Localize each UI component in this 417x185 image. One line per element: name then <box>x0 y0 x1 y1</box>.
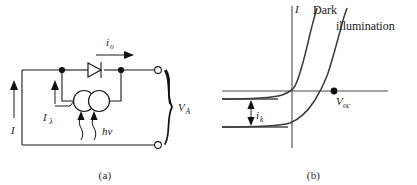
panel-a-circuit: I I λ i o hν <box>0 0 210 185</box>
photon-arrows <box>77 111 97 140</box>
label-ik-sub: k <box>260 115 264 124</box>
wire-node-to-source-right <box>110 70 121 101</box>
caption-a: (a) <box>0 169 210 181</box>
photon-arrowhead-left <box>77 111 84 120</box>
diode-symbol <box>88 62 101 78</box>
current-arrow-io <box>96 51 134 59</box>
ik-arrow-head-down <box>247 117 254 126</box>
current-arrow-I <box>10 80 18 118</box>
label-hv: hν <box>102 125 113 137</box>
wire-photocurrent-stub <box>55 101 74 106</box>
label-VA-sub: A <box>185 107 191 116</box>
iv-plot-svg: V oc i k I Dark illumination <box>210 0 417 160</box>
caption-b: (b) <box>210 169 417 181</box>
junction-node-left <box>59 67 65 73</box>
label-Ilambda: I <box>42 111 48 123</box>
wire-node-to-source-left <box>62 70 74 101</box>
label-dark: Dark <box>313 3 337 17</box>
junction-node-right <box>118 67 124 73</box>
arrow-Ilambda-head <box>51 80 59 90</box>
figure-root: I I λ i o hν <box>0 0 417 185</box>
output-terminal-top <box>155 67 162 74</box>
current-source-symbol <box>74 91 110 112</box>
photon-arrowhead-right <box>90 111 97 120</box>
diode-triangle <box>88 63 101 77</box>
panel-b-iv-plot: V oc i k I Dark illumination (b) <box>210 0 417 185</box>
label-Ilambda-sub: λ <box>49 117 54 126</box>
brace-path <box>165 71 172 144</box>
ik-arrow-head-up <box>247 100 254 109</box>
curve-illumination <box>222 8 347 127</box>
label-io-sub: o <box>110 42 114 51</box>
label-I: I <box>10 124 16 136</box>
current-arrow-Ilambda <box>51 80 59 104</box>
ik-measure-arrow <box>247 100 254 126</box>
label-Voc-sub: oc <box>343 101 351 110</box>
arrow-I-head <box>10 80 18 90</box>
label-ik: i <box>256 109 259 121</box>
output-terminal-bottom <box>155 142 162 149</box>
marker-voc <box>331 88 338 95</box>
curve-dark <box>222 8 317 99</box>
voltage-brace <box>165 70 172 144</box>
circuit-svg: I I λ i o hν <box>0 0 210 160</box>
source-circle-right <box>89 91 110 112</box>
label-io: i <box>106 36 109 48</box>
arrow-io-head <box>124 51 134 59</box>
label-axis-I: I <box>294 3 300 15</box>
label-illumination: illumination <box>336 19 395 33</box>
